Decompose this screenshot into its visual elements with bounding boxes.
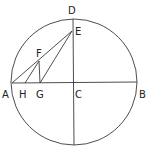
label-b: B	[139, 89, 146, 100]
label-c: C	[75, 89, 82, 100]
diameter-ab	[12, 82, 137, 83]
segment-ae	[12, 31, 72, 83]
label-e: E	[75, 26, 81, 37]
segment-ge	[40, 31, 72, 83]
segment-hf	[25, 61, 39, 83]
label-h: H	[19, 89, 27, 100]
label-f: F	[36, 48, 42, 59]
label-d: D	[68, 5, 76, 16]
label-a: A	[2, 89, 9, 100]
geometry-diagram: A H G C B D E F	[0, 0, 148, 153]
label-g: G	[36, 89, 44, 100]
segment-fg	[39, 61, 40, 83]
vertical-diameter	[73, 19, 74, 145]
